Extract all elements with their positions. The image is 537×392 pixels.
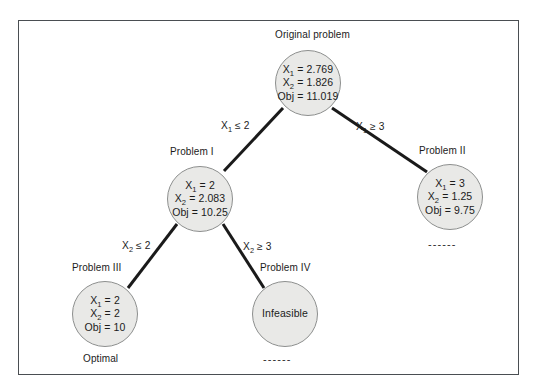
node-problem2-var2: X2 = 1.25 <box>428 190 473 204</box>
node-problem2-obj-name: Obj <box>425 204 442 216</box>
node-caption-problem1: Problem I <box>170 146 214 157</box>
edge-label-3-rel: ≤ 2 <box>136 240 150 251</box>
node-problem2-var1: X1 = 3 <box>435 177 465 191</box>
node-caption-problem4: Problem IV <box>260 262 310 273</box>
node-problem3-var1-value: 2 <box>114 294 120 306</box>
node-caption-problem3-text: Problem III <box>72 262 121 273</box>
node-root: X1 = 2.769 X2 = 1.826 Obj = 11.019 <box>275 50 341 116</box>
edge-label-root-to-problem1: X1 ≤ 2 <box>221 120 249 131</box>
node-problem2-obj: Obj = 9.75 <box>425 204 475 218</box>
edge-label-1-rel: ≤ 2 <box>235 120 249 131</box>
node-problem2: X1 = 3 X2 = 1.25 Obj = 9.75 <box>417 164 483 230</box>
edge-label-1-sub: 1 <box>228 125 232 134</box>
edge-problem1-to-problem4 <box>223 224 264 288</box>
branch-and-bound-figure: Original problem X1 = 2.769 X2 = 1.826 O… <box>0 0 537 392</box>
node-problem2-obj-value: 9.75 <box>454 204 475 216</box>
node-problem2-var2-value: 1.25 <box>451 190 472 202</box>
edge-label-4-sub: 2 <box>250 246 254 255</box>
edge-root-to-problem2 <box>332 108 427 172</box>
edge-label-root-to-problem2: X1 ≥ 3 <box>356 121 384 132</box>
node-problem4: Infeasible <box>252 281 318 347</box>
node-problem1-obj: Obj = 10.25 <box>172 206 228 220</box>
node-root-var1: X1 = 2.769 <box>283 63 334 77</box>
edge-label-problem1-to-problem3: X2 ≤ 2 <box>122 240 150 251</box>
edge-label-3-sub: 2 <box>129 245 133 254</box>
edge-label-1-var: X <box>221 120 228 131</box>
node-problem3: X1 = 2 X2 = 2 Obj = 10 <box>72 281 138 347</box>
node-root-var1-value: 2.769 <box>306 63 333 75</box>
node-problem1-var1: X1 = 2 <box>185 179 215 193</box>
node-caption-problem2: Problem II <box>419 145 466 156</box>
node-problem1-obj-value: 10.25 <box>201 206 228 218</box>
node-root-obj-name: Obj <box>278 90 295 102</box>
edge-label-3-var: X <box>122 240 129 251</box>
fathom-marker-problem4: ------ <box>263 353 292 365</box>
node-problem2-var1-value: 3 <box>459 177 465 189</box>
node-problem3-var1: X1 = 2 <box>90 294 120 308</box>
edge-label-2-var: X <box>356 121 363 132</box>
fathom-marker-problem2: ------ <box>428 238 457 250</box>
node-problem1-var2-value: 2.083 <box>198 192 225 204</box>
edge-label-problem1-to-problem4: X2 ≥ 3 <box>243 241 271 252</box>
node-root-var2-name: X <box>283 76 290 88</box>
node-problem2-var2-name: X <box>428 190 435 202</box>
node-root-obj-value: 11.019 <box>306 90 338 102</box>
edge-label-2-rel: ≥ 3 <box>370 121 384 132</box>
node-caption-problem4-text: Problem IV <box>260 262 310 273</box>
node-problem1-var2-name: X <box>175 192 182 204</box>
node-problem3-obj-name: Obj <box>85 321 102 333</box>
node-caption-problem3: Problem III <box>72 262 121 273</box>
node-root-obj: Obj = 11.019 <box>278 90 339 104</box>
node-problem4-body: Infeasible <box>262 307 308 321</box>
edge-problem1-to-problem3 <box>128 224 177 288</box>
status-label-problem3: Optimal <box>83 353 118 364</box>
node-problem1-var2: X2 = 2.083 <box>175 192 226 206</box>
node-caption-root-text: Original problem <box>275 29 350 40</box>
node-problem1-obj-name: Obj <box>172 206 189 218</box>
node-problem3-var2-value: 2 <box>114 307 120 319</box>
node-problem3-obj-value: 10 <box>114 321 126 333</box>
node-caption-problem1-text: Problem I <box>170 146 214 157</box>
edge-root-to-problem1 <box>224 108 283 171</box>
edge-label-2-sub: 1 <box>363 126 367 135</box>
node-caption-problem2-text: Problem II <box>419 145 466 156</box>
edge-label-4-rel: ≥ 3 <box>257 241 271 252</box>
edge-label-4-var: X <box>243 241 250 252</box>
node-problem3-obj: Obj = 10 <box>85 321 126 335</box>
node-root-var2: X2 = 1.826 <box>283 76 334 90</box>
node-problem3-var2: X2 = 2 <box>90 307 120 321</box>
node-root-var1-name: X <box>283 63 290 75</box>
node-problem1-var1-value: 2 <box>209 179 215 191</box>
node-problem1: X1 = 2 X2 = 2.083 Obj = 10.25 <box>167 166 233 232</box>
node-root-var2-value: 1.826 <box>306 76 333 88</box>
